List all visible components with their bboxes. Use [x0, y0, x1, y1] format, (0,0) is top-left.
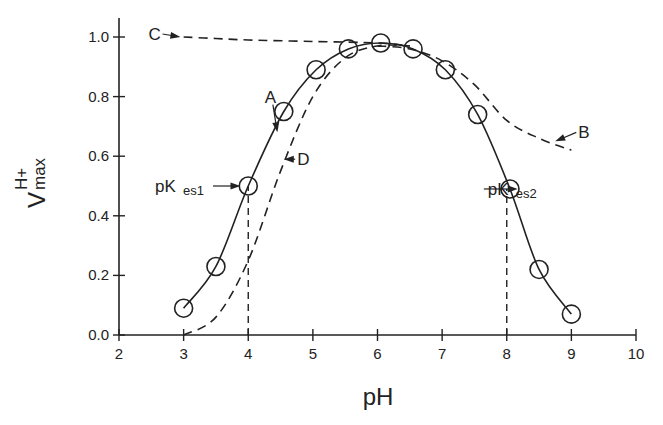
x-tick-label: 9: [567, 345, 575, 362]
y-axis-title-superscript: H+: [12, 168, 31, 190]
chart: 23456789100.00.20.40.60.81.0 ABCDpKes1pK…: [0, 0, 663, 425]
y-tick-label: 0.2: [88, 266, 109, 283]
annotation-a: A: [265, 88, 279, 133]
y-tick-label: 0.8: [88, 88, 109, 105]
x-tick-label: 3: [179, 345, 187, 362]
annotation-b: B: [555, 123, 589, 142]
y-tick-label: 1.0: [88, 28, 109, 45]
y-tick-label: 0.6: [88, 147, 109, 164]
x-tick-label: 7: [438, 345, 446, 362]
annotation-arrowhead-icon: [555, 134, 566, 141]
x-tick-label: 6: [373, 345, 381, 362]
annotation-label: A: [265, 88, 277, 107]
annotation-label: C: [149, 25, 161, 44]
series-c-line: [184, 37, 410, 46]
series-a-line: [184, 43, 572, 314]
annotation-arrowhead-icon: [284, 156, 294, 163]
annotation-c: C: [149, 25, 181, 44]
x-tick-label: 10: [628, 345, 645, 362]
series-b-line: [378, 46, 572, 150]
annotations: ABCDpKes1pKes2: [149, 25, 590, 201]
y-tick-label: 0.4: [88, 207, 109, 224]
reference-lines: [248, 186, 507, 335]
annotation-label: pK: [155, 177, 176, 196]
y-axis-title: V H+ max: [12, 157, 50, 208]
y-tick-label: 0.0: [88, 326, 109, 343]
annotation-subscript: es2: [516, 186, 537, 201]
x-tick-label: 2: [115, 345, 123, 362]
series-d-line: [184, 45, 410, 335]
x-tick-label: 4: [244, 345, 252, 362]
y-axis-title-main: V: [23, 192, 50, 208]
annotation-label: B: [578, 123, 589, 142]
x-axis-title: pH: [363, 383, 394, 410]
annotation-arrowhead-icon: [170, 32, 180, 39]
y-axis-title-subscript: max: [30, 157, 49, 190]
x-tick-label: 8: [503, 345, 511, 362]
annotation-label: D: [297, 150, 309, 169]
x-tick-label: 5: [309, 345, 317, 362]
annotation-pk-es1: pKes1: [155, 177, 240, 198]
annotation-subscript: es1: [183, 183, 204, 198]
